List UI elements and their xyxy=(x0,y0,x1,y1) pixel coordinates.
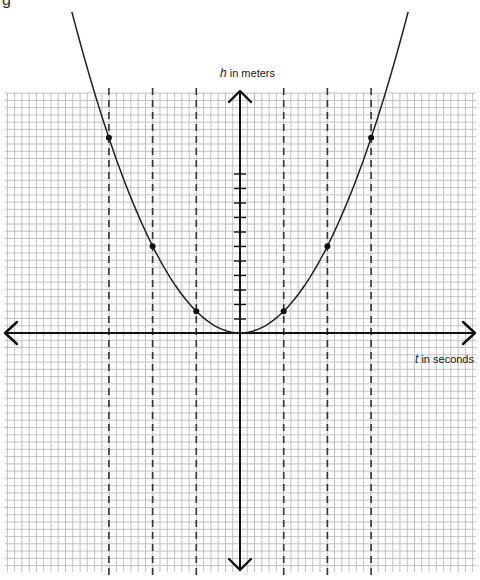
graph-paper-chart: g h in meters t in seconds xyxy=(0,0,480,580)
y-axis-variable: h xyxy=(220,66,227,80)
data-point-t-3 xyxy=(368,135,374,141)
y-axis-unit-text: in meters xyxy=(227,67,275,79)
data-point-t--3 xyxy=(106,135,112,141)
data-point-t-1 xyxy=(281,308,287,314)
data-point-t--1 xyxy=(193,308,199,314)
data-point-t-2 xyxy=(324,243,330,249)
axes xyxy=(5,91,475,570)
chart-canvas xyxy=(0,0,480,580)
x-axis-unit-text: in seconds xyxy=(418,353,474,365)
cropped-figure-label: g xyxy=(2,0,11,9)
y-axis-label: h in meters xyxy=(220,66,275,80)
x-axis-label: t in seconds xyxy=(415,352,474,366)
data-point-t--2 xyxy=(150,243,156,249)
